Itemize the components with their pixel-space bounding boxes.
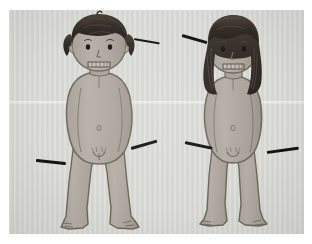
short-haired-body-group [61,11,139,229]
figure-drawing-plate: short-haired figure [9,10,304,234]
long-haired-body-group [200,15,267,226]
clipped-caption-row: — —— —— — — —— — — —— —— [0,0,312,7]
figure-long-haired: long-haired figure [177,10,287,234]
caption-text: — —— —— — — —— — — —— —— [2,0,199,4]
figure-short-haired: short-haired figure [39,10,159,234]
